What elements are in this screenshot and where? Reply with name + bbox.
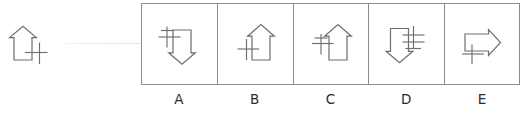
option-label-e: E [444, 90, 520, 108]
option-cell-c[interactable] [293, 3, 369, 85]
puzzle-canvas: A B C D E [0, 0, 530, 117]
connector-rule [56, 43, 140, 44]
option-figure-a [156, 21, 202, 67]
up-arrow-icon [248, 25, 275, 60]
option-labels-row: A B C D E [141, 90, 520, 108]
double-bar-plus-marker-icon [402, 26, 424, 49]
down-arrow-icon [386, 29, 413, 63]
option-cell-a[interactable] [141, 3, 217, 85]
plus-marker-icon [312, 34, 334, 55]
option-label-a: A [141, 90, 217, 108]
option-label-c: C [293, 90, 369, 108]
option-cell-e[interactable] [444, 3, 520, 85]
up-arrow-icon [325, 25, 352, 60]
option-figure-c [308, 21, 354, 67]
option-cell-d[interactable] [368, 3, 444, 85]
down-arrow-icon [169, 30, 196, 64]
plus-marker-icon [238, 39, 260, 60]
option-cell-b[interactable] [217, 3, 293, 85]
option-label-b: B [217, 90, 293, 108]
option-figure-b [232, 21, 278, 67]
reference-figure [8, 24, 52, 68]
plus-marker-icon [25, 43, 48, 65]
option-label-d: D [368, 90, 444, 108]
up-arrow-icon [10, 26, 37, 60]
option-figure-d [384, 21, 430, 67]
option-figure-e [459, 21, 505, 67]
right-arrow-icon [465, 30, 501, 56]
options-row [141, 3, 520, 85]
